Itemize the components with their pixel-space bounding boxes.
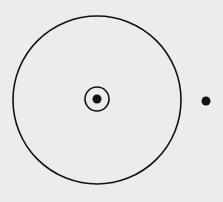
diagram-canvas — [0, 0, 223, 202]
center-dot — [93, 95, 102, 104]
external-dot — [202, 97, 211, 106]
